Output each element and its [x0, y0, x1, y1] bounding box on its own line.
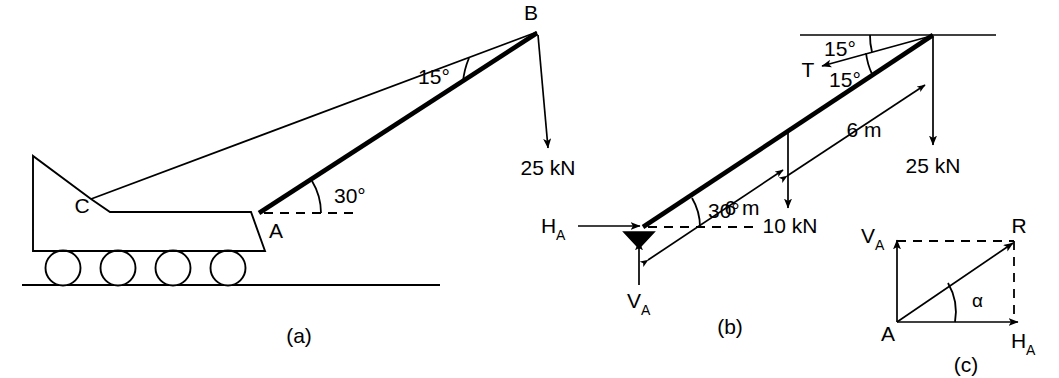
dimension-label-upper-6m: 6 m [846, 118, 881, 141]
svg-text:A: A [641, 302, 651, 318]
panel-caption-c: (c) [954, 353, 979, 376]
panel-caption-a: (a) [286, 324, 312, 347]
cable-cb [91, 32, 537, 199]
panel-b: 25 kN 10 kN 6 m 6 m T 15° 15° 30° H [541, 35, 996, 338]
wheel-4 [211, 251, 246, 286]
point-label-a-c: A [881, 322, 895, 345]
load-label-25kn-b: 25 kN [906, 154, 961, 177]
angle-arc-30 [312, 181, 321, 213]
angle-label-30-b: 30° [708, 199, 740, 222]
load-label-25kn-a: 25 kN [521, 156, 576, 179]
svg-text:H: H [1011, 329, 1026, 352]
angle-label-30-a: 30° [334, 184, 366, 207]
engineering-figure: B C A 15° 30° 25 kN (a) [0, 0, 1059, 378]
svg-text:H: H [541, 214, 556, 237]
point-label-b: B [524, 1, 538, 24]
angle-label-15-horizontal: 15° [824, 37, 856, 60]
load-label-10kn: 10 kN [763, 214, 818, 237]
component-label-va-c: V A [861, 224, 885, 253]
angle-arc-15-cable-boom [866, 53, 872, 74]
reaction-label-va: V A [627, 289, 651, 318]
cable-tension-label: T [802, 58, 815, 81]
angle-arc-30-b [692, 198, 700, 227]
wheel-group [46, 251, 246, 286]
svg-text:V: V [861, 224, 875, 247]
angle-arc-15-horizontal-cable [870, 35, 872, 52]
panel-caption-b: (b) [717, 315, 743, 338]
wheel-3 [156, 251, 191, 286]
load-arrow-25kn [538, 35, 548, 148]
component-label-ha-c: H A [1011, 329, 1036, 358]
svg-text:A: A [556, 227, 566, 243]
wheel-2 [101, 251, 136, 286]
wheel-1 [46, 251, 81, 286]
crane-body [33, 156, 265, 252]
angle-label-alpha: α [972, 290, 983, 311]
svg-text:A: A [875, 237, 885, 253]
panel-c: A R V A H A α (c) [861, 214, 1036, 376]
svg-text:A: A [1026, 342, 1036, 358]
point-label-r: R [1011, 214, 1026, 237]
point-label-a: A [269, 219, 283, 242]
boom-ab [259, 33, 537, 213]
angle-arc-alpha [948, 283, 956, 322]
svg-text:V: V [627, 289, 641, 312]
panel-a: B C A 15° 30° 25 kN (a) [22, 1, 575, 347]
reaction-label-ha: H A [541, 214, 566, 243]
point-label-c: C [74, 194, 89, 217]
angle-label-15-a: 15° [418, 65, 450, 88]
angle-label-15-boom: 15° [829, 68, 861, 91]
